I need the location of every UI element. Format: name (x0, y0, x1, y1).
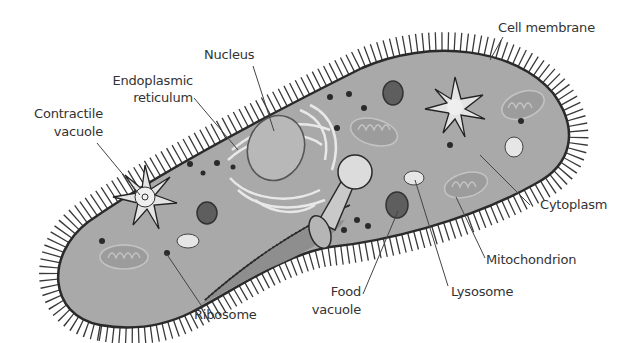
oral-vacuole (338, 155, 372, 189)
label-cytoplasm: Cytoplasm (540, 197, 607, 212)
label-ribosome: Ribosome (194, 307, 257, 322)
label-fv-line2: vacuole (300, 302, 361, 317)
label-cv-line2: vacuole (10, 124, 103, 139)
label-fv-line1: Food (300, 284, 361, 299)
paramecium-diagram: Cell membrane Nucleus Endoplasmic reticu… (0, 0, 637, 343)
label-nucleus: Nucleus (204, 47, 254, 62)
label-mitochondrion: Mitochondrion (486, 252, 576, 267)
label-cell-membrane: Cell membrane (498, 20, 595, 35)
label-er-line1: Endoplasmic (103, 73, 193, 88)
label-cv-line1: Contractile (10, 106, 103, 121)
label-lysosome: Lysosome (451, 284, 513, 299)
label-er-line2: reticulum (103, 90, 193, 105)
